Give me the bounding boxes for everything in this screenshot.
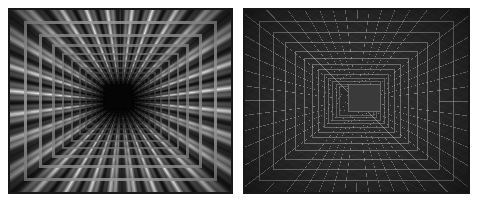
wireframe-render-stage bbox=[243, 8, 470, 194]
panel-wireframe-render[interactable] bbox=[243, 8, 470, 194]
lit-render-stage bbox=[8, 8, 233, 194]
wireframe-vanishing-point-aperture bbox=[348, 84, 381, 112]
panel-lit-render[interactable] bbox=[8, 8, 233, 194]
lit-vanishing-point-aperture bbox=[105, 85, 131, 108]
figure-root bbox=[0, 0, 477, 202]
